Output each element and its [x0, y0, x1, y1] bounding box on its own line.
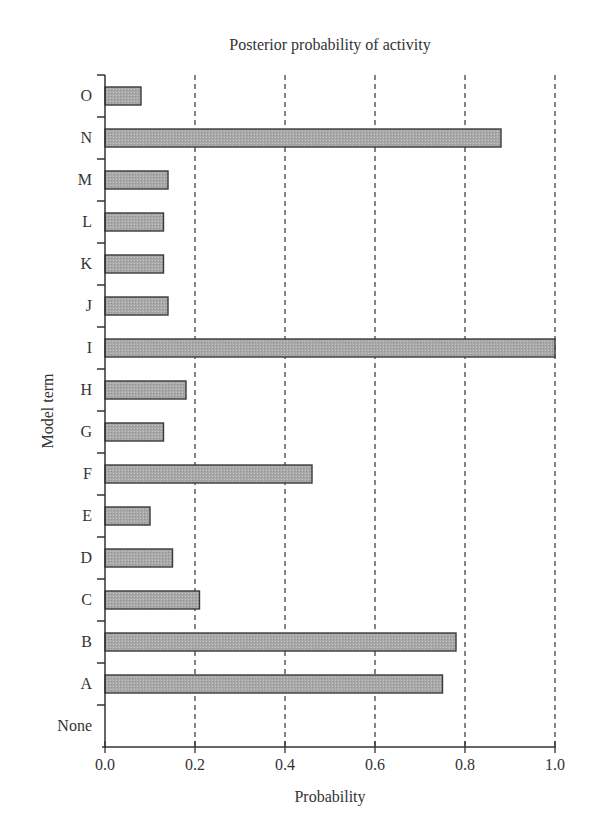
x-tick-label: 0.4: [265, 756, 305, 774]
category-label: C: [81, 591, 92, 609]
x-tick-label: 0.6: [355, 756, 395, 774]
bar-d: [105, 549, 173, 567]
category-label: H: [80, 381, 92, 399]
category-label: F: [83, 465, 92, 483]
bar-f: [105, 465, 312, 483]
bar-g: [105, 423, 164, 441]
category-label: D: [80, 549, 92, 567]
category-label: B: [81, 633, 92, 651]
x-tick-label: 0.8: [445, 756, 485, 774]
bar-k: [105, 255, 164, 273]
category-label: None: [57, 717, 92, 735]
category-label: G: [80, 423, 92, 441]
category-label: M: [78, 171, 92, 189]
bar-o: [105, 87, 141, 105]
bar-c: [105, 591, 200, 609]
bar-n: [105, 129, 501, 147]
category-label: J: [86, 297, 92, 315]
bar-i: [105, 339, 555, 357]
bar-h: [105, 381, 186, 399]
category-label: L: [82, 213, 92, 231]
bar-a: [105, 675, 443, 693]
x-tick-label: 1.0: [535, 756, 575, 774]
bar-l: [105, 213, 164, 231]
bar-e: [105, 507, 150, 525]
category-label: A: [80, 675, 92, 693]
bar-b: [105, 633, 456, 651]
category-label: K: [80, 255, 92, 273]
bar-j: [105, 297, 168, 315]
x-tick-label: 0.2: [175, 756, 215, 774]
category-label: O: [80, 87, 92, 105]
plot-area: [0, 0, 592, 834]
x-tick-label: 0.0: [85, 756, 125, 774]
category-label: I: [87, 339, 92, 357]
bar-m: [105, 171, 168, 189]
category-label: E: [82, 507, 92, 525]
category-label: N: [80, 129, 92, 147]
posterior-probability-chart: Posterior probability of activity Model …: [0, 0, 592, 834]
